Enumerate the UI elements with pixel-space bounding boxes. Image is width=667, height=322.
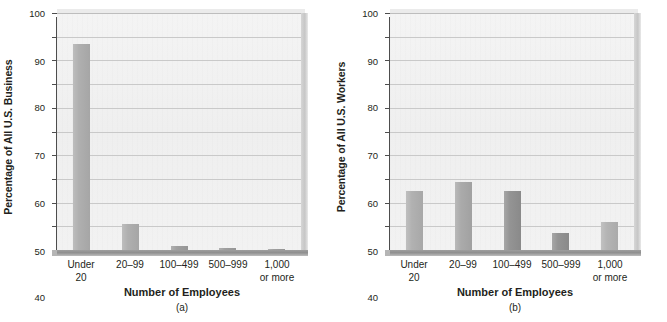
bar-face: [406, 191, 423, 250]
y-tick-mark: 80: [385, 60, 390, 61]
gridline: [57, 13, 301, 14]
x-tick-label: 1,000or more: [593, 258, 627, 284]
y-tick-label: 100: [362, 8, 378, 19]
y-tick-label: 70: [367, 150, 378, 161]
gridline: [390, 60, 634, 61]
y-tick-mark: 90: [52, 37, 57, 38]
x-tick-label: Under20: [400, 258, 427, 284]
panel-caption-a: (a): [57, 302, 307, 313]
x-tick-label: Under20: [67, 258, 94, 284]
bar-face: [122, 224, 139, 250]
y-tick-label: 70: [34, 150, 45, 161]
y-tick-mark: 50: [52, 132, 57, 133]
x-tick-label-line1: 100–499: [493, 259, 532, 270]
gridline: [57, 226, 301, 227]
y-tick-mark: 30: [385, 179, 390, 180]
plot-area-b: 0102030405060708090100: [390, 13, 634, 250]
y-tick-label: 40: [34, 292, 45, 303]
y-axis-line-a: [56, 17, 57, 255]
y-tick-mark: 20: [385, 203, 390, 204]
x-tick-label: 100–499: [160, 258, 199, 271]
bar-face: [601, 222, 618, 250]
panel-caption-b: (b): [390, 302, 640, 313]
y-tick-label: 60: [367, 198, 378, 209]
x-axis-title-b: Number of Employees: [390, 286, 640, 298]
x-tick-label-line1: Under: [400, 259, 427, 270]
x-tick-label-line1: 20–99: [449, 259, 477, 270]
y-tick-label: 100: [29, 8, 45, 19]
y-tick-mark: 10: [52, 226, 57, 227]
x-tick-label-line1: 1,000: [264, 259, 289, 270]
x-tick-label-line2: or more: [593, 271, 627, 284]
y-tick-label: 50: [34, 246, 45, 257]
x-tick-label: 500–999: [209, 258, 248, 271]
bar: [504, 191, 521, 250]
x-tick-label: 100–499: [493, 258, 532, 271]
gridline: [390, 155, 634, 156]
y-tick-label: 90: [367, 56, 378, 67]
y-axis-title-a: Percentage of All U.S. Business: [2, 12, 16, 262]
bar: [406, 191, 423, 250]
x-tick-label-line1: Under: [67, 259, 94, 270]
x-tick-label: 1,000or more: [260, 258, 294, 284]
y-tick-label: 50: [367, 246, 378, 257]
plot-floor-b: [390, 250, 641, 256]
gridline: [57, 203, 301, 204]
bar-face: [552, 233, 569, 250]
y-tick-mark: 20: [52, 203, 57, 204]
y-tick-label: 80: [367, 102, 378, 113]
gridline: [390, 84, 634, 85]
x-tick-label-line1: 20–99: [116, 259, 144, 270]
y-tick-mark: 30: [52, 179, 57, 180]
bar: [73, 44, 90, 250]
y-tick-mark: 100: [385, 13, 390, 14]
bar-face: [504, 191, 521, 250]
x-tick-label: 20–99: [449, 258, 477, 271]
x-tick-label-line1: 1,000: [597, 259, 622, 270]
y-tick-mark: 50: [385, 132, 390, 133]
y-tick-mark: 60: [52, 108, 57, 109]
x-tick-label: 500–999: [542, 258, 581, 271]
gridline: [57, 132, 301, 133]
gridline: [390, 108, 634, 109]
bar-face: [455, 182, 472, 250]
y-tick-mark: 70: [385, 84, 390, 85]
x-tick-label-line1: 500–999: [542, 259, 581, 270]
y-tick-label: 80: [34, 102, 45, 113]
x-tick-label-line2: 20: [67, 271, 94, 284]
plot-wrapper-b: 0102030405060708090100: [390, 9, 640, 254]
gridline: [57, 155, 301, 156]
bar-face: [73, 44, 90, 250]
plot-area-a: 0102030405060708090100: [57, 13, 301, 250]
y-tick-label: 40: [367, 292, 378, 303]
y-tick-label: 90: [34, 56, 45, 67]
y-axis-line-b: [389, 17, 390, 255]
y-tick-mark: 80: [52, 60, 57, 61]
gridline: [390, 132, 634, 133]
gridline: [390, 37, 634, 38]
gridline: [390, 179, 634, 180]
y-tick-mark: 70: [52, 84, 57, 85]
plot-floor-a: [57, 250, 308, 256]
bar: [601, 222, 618, 250]
plot-3d-side-edge-a: [301, 13, 308, 250]
bar: [455, 182, 472, 250]
y-tick-mark: 40: [385, 155, 390, 156]
y-tick-mark: 100: [52, 13, 57, 14]
gridline: [57, 179, 301, 180]
y-tick-mark: 10: [385, 226, 390, 227]
figure-container: Percentage of All U.S. Business 01020304…: [0, 0, 667, 322]
gridline: [57, 37, 301, 38]
gridline: [57, 108, 301, 109]
gridline: [57, 60, 301, 61]
chart-panel-a: Percentage of All U.S. Business 01020304…: [0, 0, 333, 322]
y-tick-label: 60: [34, 198, 45, 209]
bar: [122, 224, 139, 250]
x-tick-label-line1: 500–999: [209, 259, 248, 270]
y-axis-title-b: Percentage of All U.S. Workers: [335, 12, 349, 262]
y-tick-mark: 60: [385, 108, 390, 109]
plot-wrapper-a: 0102030405060708090100: [57, 9, 307, 254]
plot-3d-side-edge-b: [634, 13, 641, 250]
x-tick-label: 20–99: [116, 258, 144, 271]
bar: [552, 233, 569, 250]
